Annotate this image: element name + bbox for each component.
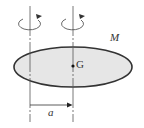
center-of-gravity-dot — [71, 64, 74, 67]
arrowhead-icon — [67, 103, 73, 108]
distance-label: a — [48, 107, 54, 118]
mass-label: M — [110, 32, 119, 43]
diagram-canvas — [0, 0, 144, 128]
center-of-gravity-label: G — [76, 59, 84, 70]
